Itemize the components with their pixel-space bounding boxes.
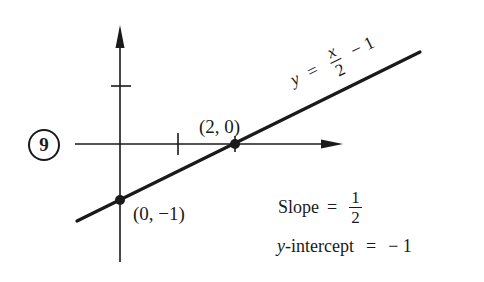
equation-equals: = [303,59,321,81]
point-y-intercept [115,195,125,205]
intercept-equals: = [366,236,376,257]
x-axis-arrow-icon [321,140,343,149]
intercept-value: − 1 [388,236,412,257]
intercept-label-rest: -intercept [285,236,354,257]
problem-number: 9 [39,134,49,156]
point-label-x-intercept: (2, 0) [199,116,240,138]
equation-denominator: 2 [332,60,348,80]
slope-equals: = [327,197,337,218]
point-label-y-intercept: (0, −1) [133,203,185,225]
problem-number-badge: 9 [28,129,60,161]
slope-denominator: 2 [351,208,360,226]
slope-numerator: 1 [349,189,362,208]
graph-line [77,52,420,221]
slope-fraction: 1 2 [349,189,362,226]
graph-figure: 9 (2, 0) (0, −1) y = x 2 − 1 Slope = 1 2… [0,0,484,282]
intercept-label-var: y [277,236,285,257]
y-axis-arrow-icon [116,25,125,48]
slope-annotation: Slope = 1 2 [278,189,366,226]
slope-label: Slope [278,197,319,218]
equation-fraction: x 2 [323,42,350,80]
intercept-annotation: y -intercept = − 1 [277,236,412,257]
